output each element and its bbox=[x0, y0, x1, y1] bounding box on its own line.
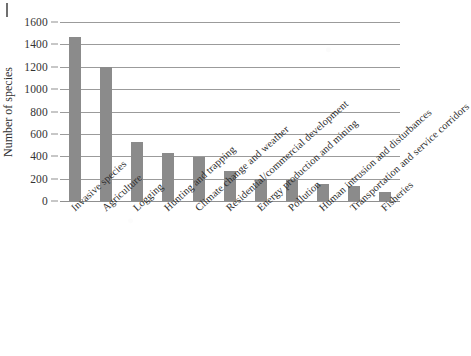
x-category-label: Human intrusion and disturbances bbox=[317, 107, 434, 214]
x-category-label: Transportation and service corridors bbox=[348, 101, 471, 213]
